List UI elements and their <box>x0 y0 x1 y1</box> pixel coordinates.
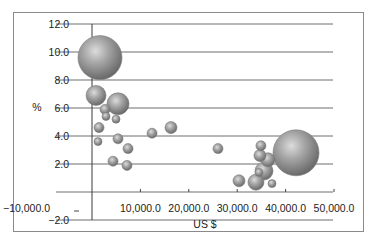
bubble-point <box>94 138 102 146</box>
x-tick-label: 20,000.0 <box>168 202 209 214</box>
bubble-point <box>213 144 223 154</box>
bubble-point <box>108 156 118 166</box>
bubble-point <box>123 144 133 154</box>
bubble-point <box>102 112 110 120</box>
bubble-point <box>112 115 120 123</box>
bubble-chart: 12.010.08.06.04.02.0−2.0−10,000.010,000.… <box>0 0 378 246</box>
bubble-point <box>165 122 177 134</box>
bubble-point <box>147 128 157 138</box>
axis-labels: 12.010.08.06.04.02.0−2.0−10,000.010,000.… <box>3 18 355 230</box>
y-tick-label: 8.0 <box>54 74 69 86</box>
bubble-point <box>78 36 122 80</box>
y-tick-label: 4.0 <box>54 130 69 142</box>
bubble-point <box>273 130 319 176</box>
x-tick-label: 50,000.0 <box>314 202 355 214</box>
bubble-point <box>268 180 276 188</box>
x-tick-label: −10,000.0 <box>3 202 50 214</box>
bubble-point <box>256 141 266 151</box>
bubble-point <box>122 160 132 170</box>
bubble-point <box>248 174 264 190</box>
bubble-point <box>107 93 129 115</box>
y-tick-label: 6.0 <box>54 102 69 114</box>
y-tick-label: 12.0 <box>49 18 70 30</box>
bubble-point <box>254 150 266 162</box>
bubble-point <box>94 123 104 133</box>
bubble-point <box>255 168 263 176</box>
x-tick-label: 30,000.0 <box>217 202 258 214</box>
x-tick-label: 10,000.0 <box>120 202 161 214</box>
x-axis-title: US $ <box>193 218 217 230</box>
y-tick-label: 10.0 <box>49 46 70 58</box>
bubble-point <box>113 134 123 144</box>
bubble-point <box>233 175 245 187</box>
y-tick-label: 2.0 <box>54 158 69 170</box>
bubbles <box>78 36 319 191</box>
y-axis-title: % <box>32 101 41 113</box>
bubble-point <box>86 85 106 105</box>
x-tick-label: 40,000.0 <box>265 202 306 214</box>
y-tick-label: −2.0 <box>48 214 69 226</box>
